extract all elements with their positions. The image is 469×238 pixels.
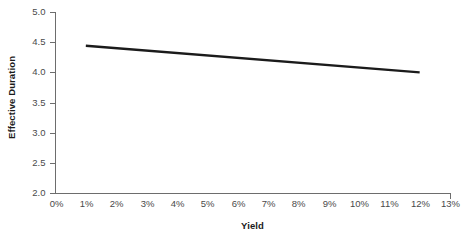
y-tick-label: 4.5 <box>32 36 45 47</box>
y-tick-label: 5.0 <box>32 6 45 17</box>
chart-container: 2.02.53.03.54.04.55.0 0%1%2%3%4%5%6%7%8%… <box>0 0 469 238</box>
y-tick-label: 4.0 <box>32 66 45 77</box>
x-axis-label: Yield <box>55 220 450 231</box>
x-tick-label: 8% <box>292 198 306 209</box>
x-tick-label: 5% <box>201 198 215 209</box>
data-series-group <box>86 46 420 73</box>
y-tick-label: 2.0 <box>32 187 45 198</box>
x-tick-label: 12% <box>411 198 431 209</box>
x-tick-label: 4% <box>171 198 185 209</box>
x-tick-label: 0% <box>50 198 64 209</box>
y-tick-label: 3.0 <box>32 127 45 138</box>
plot-area: 2.02.53.03.54.04.55.0 0%1%2%3%4%5%6%7%8%… <box>0 0 469 238</box>
x-tick-label: 9% <box>323 198 337 209</box>
y-tick-label: 2.5 <box>32 157 45 168</box>
x-tick-label: 1% <box>80 198 94 209</box>
x-tick-label: 2% <box>110 198 124 209</box>
x-tick-label: 11% <box>380 198 399 209</box>
x-tick-label: 10% <box>350 198 370 209</box>
y-tick-label: 3.5 <box>32 97 45 108</box>
x-axis-ticks: 0%1%2%3%4%5%6%7%8%9%10%11%12%13% <box>50 198 461 209</box>
series-line <box>86 46 420 73</box>
y-axis-ticks: 2.02.53.03.54.04.55.0 <box>32 6 55 198</box>
x-tick-label: 3% <box>141 198 155 209</box>
x-tick-label: 13% <box>441 198 461 209</box>
x-tick-label: 6% <box>232 198 246 209</box>
x-tick-label: 7% <box>262 198 276 209</box>
y-axis-label: Effective Duration <box>6 43 17 153</box>
